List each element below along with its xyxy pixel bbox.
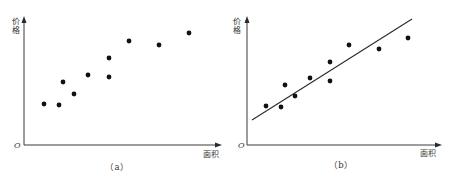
scatter-panel-a: 价 格 O 面积 （a） <box>12 16 222 172</box>
scatter-panel-b: 价 格 O 面积 （b） <box>233 16 442 170</box>
origin-label-b: O <box>238 141 245 150</box>
data-point <box>279 105 284 110</box>
y-axis-arrow-icon-a <box>22 16 27 23</box>
data-point <box>377 47 382 52</box>
y-axis-label-a-top: 价 <box>12 17 20 26</box>
y-axis-label-b-top: 价 <box>233 17 241 26</box>
data-point <box>283 83 288 88</box>
data-point <box>107 56 112 61</box>
data-point <box>107 75 112 80</box>
y-axis-label-b-bottom: 格 <box>233 25 241 35</box>
x-axis-label-b: 面积 <box>420 148 436 158</box>
data-point <box>264 104 269 109</box>
figure-canvas: 价 格 O 面积 （a） 价 格 O 面积 （b） <box>0 0 453 179</box>
x-axis-arrow-icon-b <box>435 143 442 148</box>
data-point <box>293 94 298 99</box>
x-axis-arrow-icon-a <box>215 143 222 148</box>
x-axis-label-a: 面积 <box>203 149 219 159</box>
data-point <box>328 79 333 84</box>
data-point <box>127 39 132 44</box>
regression-line-b <box>252 19 412 120</box>
data-point <box>347 43 352 48</box>
data-point <box>42 102 47 107</box>
data-point <box>72 92 77 97</box>
data-point <box>61 80 66 85</box>
panel-caption-b: （b） <box>329 160 352 170</box>
data-point <box>328 60 333 65</box>
data-point <box>308 76 313 81</box>
y-axis-label-a-bottom: 格 <box>12 25 20 35</box>
data-points-a <box>42 31 192 108</box>
y-axis-arrow-icon-b <box>245 16 250 23</box>
data-point <box>157 43 162 48</box>
data-point <box>406 36 411 41</box>
data-point <box>86 73 91 78</box>
origin-label-a: O <box>14 141 21 150</box>
panel-caption-a: （a） <box>105 162 128 172</box>
data-point <box>187 31 192 36</box>
data-point <box>57 103 62 108</box>
